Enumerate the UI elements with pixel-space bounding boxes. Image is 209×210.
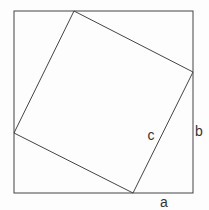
side-label-c: c — [148, 127, 155, 143]
outer-square — [14, 11, 193, 193]
pythagorean-diagram: abc — [0, 0, 209, 210]
inner-tilted-square — [14, 11, 193, 193]
side-label-b: b — [195, 123, 203, 139]
diagram-svg: abc — [0, 0, 209, 210]
side-label-a: a — [160, 194, 168, 210]
